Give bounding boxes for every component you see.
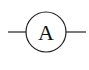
meter-label: A [38, 20, 54, 45]
ammeter-symbol: A [0, 0, 89, 70]
